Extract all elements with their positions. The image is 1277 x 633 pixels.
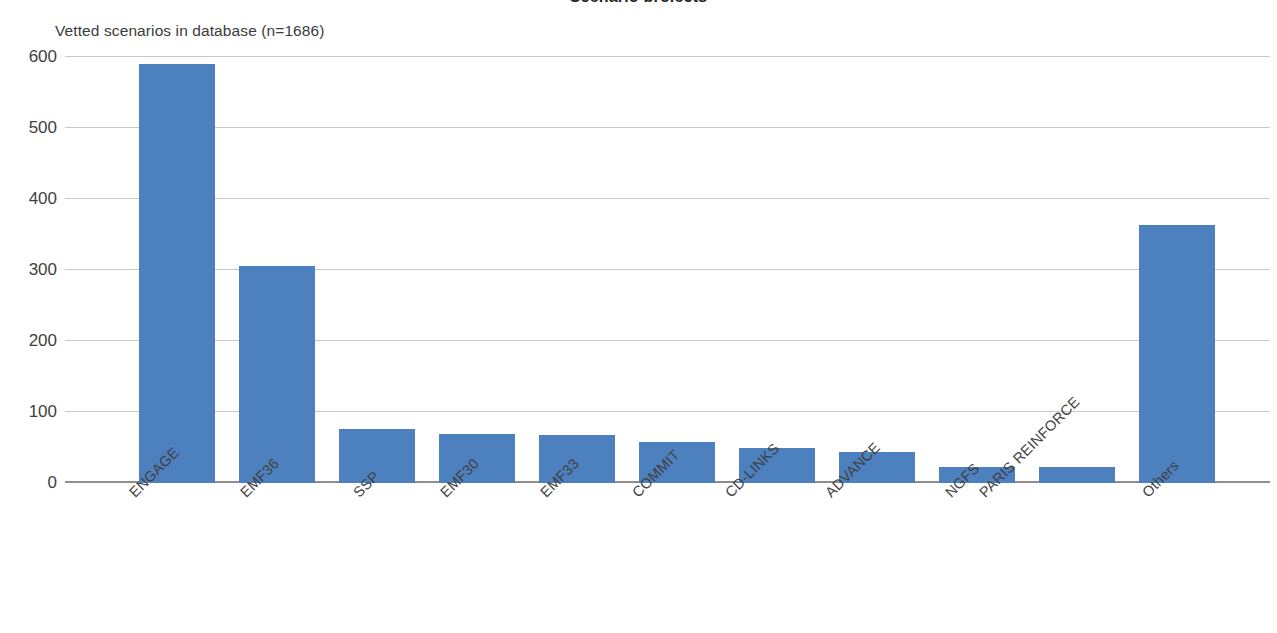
y-axis-tick-label: 300 <box>1 260 57 280</box>
y-axis-tick-labels: 0100200300400500600 <box>0 57 57 483</box>
y-axis-tick-label: 400 <box>1 189 57 209</box>
chart-subtitle: Vetted scenarios in database (n=1686) <box>55 22 325 40</box>
y-axis-tick-label: 0 <box>1 473 57 493</box>
bar-chart-figure: Scenario projects Vetted scenarios in da… <box>0 0 1277 633</box>
y-axis-tick-label: 100 <box>1 402 57 422</box>
plot-area <box>65 57 1270 483</box>
bar[interactable] <box>1039 467 1115 483</box>
bar[interactable] <box>139 64 215 483</box>
y-axis-tick-label: 500 <box>1 118 57 138</box>
y-axis-tick-label: 600 <box>1 47 57 67</box>
bar[interactable] <box>1139 225 1215 483</box>
bar[interactable] <box>239 266 315 483</box>
clipped-chart-title: Scenario projects <box>0 0 1277 2</box>
bar-series <box>65 57 1270 483</box>
y-axis-tick-label: 200 <box>1 331 57 351</box>
